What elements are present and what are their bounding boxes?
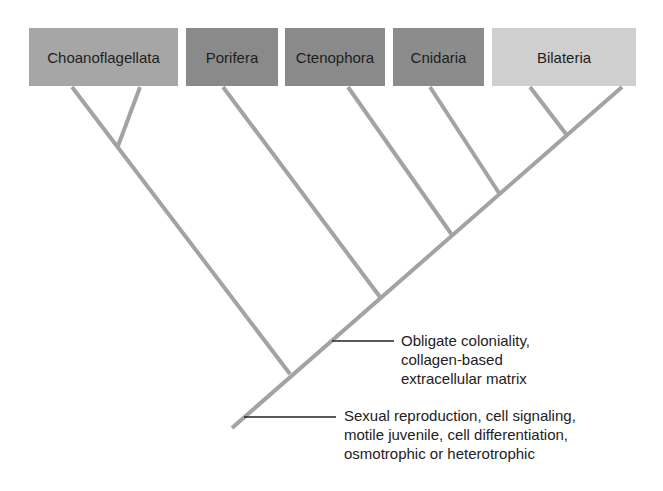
annotation-line: osmotrophic or heterotrophic [344, 444, 576, 463]
branch-bilateria [530, 87, 566, 134]
annotation-line: collagen-based [401, 350, 530, 369]
branch-cnidaria [430, 87, 499, 193]
annotation-line: Obligate coloniality, [401, 331, 530, 350]
annotation-line: motile juvenile, cell differentiation, [344, 425, 576, 444]
branch-porifera [223, 87, 380, 297]
annotation-root-node: Sexual reproduction, cell signaling, mot… [344, 406, 576, 463]
branch-choanoflagellata-b [118, 87, 140, 146]
annotation-animal-node: Obligate coloniality, collagen-based ext… [401, 331, 530, 388]
annotation-line: extracellular matrix [401, 369, 530, 388]
branch-ctenophora [348, 87, 452, 235]
annotation-line: Sexual reproduction, cell signaling, [344, 406, 576, 425]
